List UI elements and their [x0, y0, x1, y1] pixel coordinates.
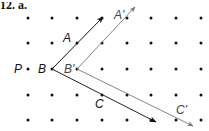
grid-dot: [150, 17, 153, 20]
grid-dot: [150, 94, 153, 97]
grid-dot: [200, 94, 203, 97]
grid-dot: [101, 68, 104, 71]
grid-dot: [126, 42, 129, 45]
grid-dot: [126, 119, 129, 122]
grid-dot: [27, 94, 30, 97]
grid-dot: [76, 94, 79, 97]
grid-dot: [76, 17, 79, 20]
grid-dot: [76, 119, 79, 122]
vector-bprimeaprime-arrow: [77, 7, 135, 69]
vector-bc-arrow: [52, 69, 156, 122]
grid-dot: [51, 17, 54, 20]
grid-dot: [175, 42, 178, 45]
grid-dot: [27, 42, 30, 45]
vector-ba-arrow: [52, 17, 103, 69]
grid-dot: [150, 68, 153, 71]
grid-dot: [126, 68, 129, 71]
grid-dot: [200, 119, 203, 122]
grid-dot: [175, 119, 178, 122]
grid-dot: [101, 119, 104, 122]
grid-dot: [200, 17, 203, 20]
grid-dot: [175, 68, 178, 71]
grid-dot: [27, 68, 30, 71]
grid-dot: [200, 42, 203, 45]
grid-dot: [200, 68, 203, 71]
grid-dot: [51, 94, 54, 97]
grid-dot: [175, 17, 178, 20]
point-label-c: C: [95, 98, 104, 110]
point-label-a-prime: A': [114, 9, 124, 21]
grid-dot: [27, 119, 30, 122]
point-label-b-prime: B': [64, 63, 74, 75]
grid-dot: [175, 94, 178, 97]
point-label-c-prime: C': [176, 104, 187, 116]
point-label-a: A: [63, 32, 71, 44]
grid-dot: [51, 42, 54, 45]
grid-dot: [51, 119, 54, 122]
grid-dot: [150, 42, 153, 45]
diagram-canvas: 12. a. PBACB'A'C': [0, 0, 209, 131]
point-label-b: B: [38, 63, 46, 75]
grid-dot: [27, 17, 30, 20]
point-label-p: P: [14, 63, 22, 75]
